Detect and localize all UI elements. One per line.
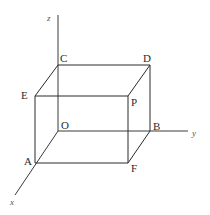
vertex-label-E: E	[21, 89, 28, 101]
vertex-label-O: O	[61, 119, 69, 131]
vertex-label-F: F	[131, 162, 137, 174]
vertex-label-A: A	[24, 155, 32, 167]
vertex-label-C: C	[60, 52, 67, 64]
coordinate-box-diagram: z y x C D E P O B A F	[0, 0, 210, 215]
x-axis-label: x	[9, 197, 14, 207]
vertex-label-B: B	[153, 120, 160, 132]
vertex-label-P: P	[131, 96, 137, 108]
vertex-label-D: D	[143, 52, 151, 64]
y-axis-label: y	[191, 128, 196, 138]
z-axis-label: z	[46, 13, 51, 23]
edge-CE	[35, 65, 58, 96]
edge-FB	[128, 131, 150, 163]
edge-DP	[128, 65, 150, 96]
